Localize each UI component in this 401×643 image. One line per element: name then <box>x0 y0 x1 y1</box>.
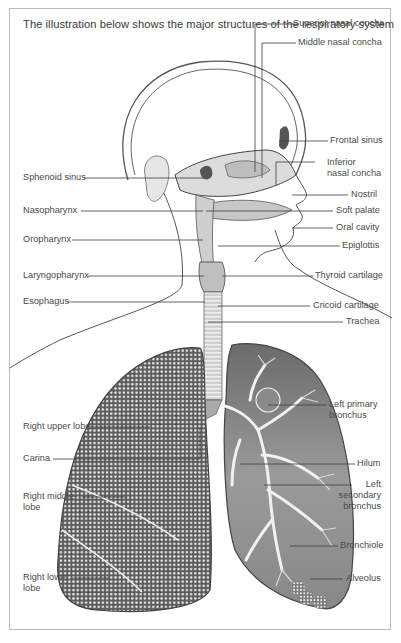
label-middle-nasal-concha: Middle nasal concha <box>298 37 382 48</box>
label-line: secondary <box>336 490 381 501</box>
label-line: bronchus <box>336 501 381 512</box>
label-alveolus: Alveolus <box>346 573 381 584</box>
label-line: lobe <box>23 583 69 594</box>
label-left-secondary-bronchus: Left secondary bronchus <box>336 479 381 512</box>
label-right-lower-lobe: Right lower lobe <box>23 572 69 594</box>
label-frontal-sinus: Frontal sinus <box>330 135 383 146</box>
label-laryngopharynx: Laryngopharynx <box>23 270 89 281</box>
label-cricoid-cartilage: Cricoid cartilage <box>313 300 379 311</box>
label-left-primary-bronchus: Left primary bronchus <box>329 399 378 421</box>
label-inferior-nasal-concha: Inferior nasal concha <box>327 157 381 179</box>
label-line: Right lower <box>23 572 69 583</box>
label-line: Left primary <box>329 399 378 410</box>
label-carina: Carina <box>23 453 50 464</box>
label-soft-palate: Soft palate <box>336 205 380 216</box>
label-line: Inferior <box>327 157 381 168</box>
label-nostril: Nostril <box>351 189 377 200</box>
label-line: nasal concha <box>327 168 381 179</box>
label-right-upper-lobe: Right upper lobe <box>23 421 90 432</box>
label-line: Right middle <box>23 491 74 502</box>
label-bronchiole: Bronchiole <box>340 540 383 551</box>
label-epiglottis: Epiglottis <box>342 240 379 251</box>
label-nasopharynx: Nasopharynx <box>23 205 77 216</box>
label-oral-cavity: Oral cavity <box>336 222 379 233</box>
label-line: lobe <box>23 502 74 513</box>
label-thyroid-cartilage: Thyroid cartilage <box>315 270 383 281</box>
label-hilum: Hilum <box>357 458 380 469</box>
label-esophagus: Esophagus <box>23 296 69 307</box>
label-line: Left <box>336 479 381 490</box>
label-trachea: Trachea <box>346 316 379 327</box>
label-sphenoid-sinus: Sphenoid sinus <box>23 172 86 183</box>
label-oropharynx: Oropharynx <box>23 234 71 245</box>
label-line: bronchus <box>329 410 378 421</box>
label-superior-nasal-concha: Superior nasal concha <box>293 18 384 29</box>
label-right-middle-lobe: Right middle lobe <box>23 491 74 513</box>
